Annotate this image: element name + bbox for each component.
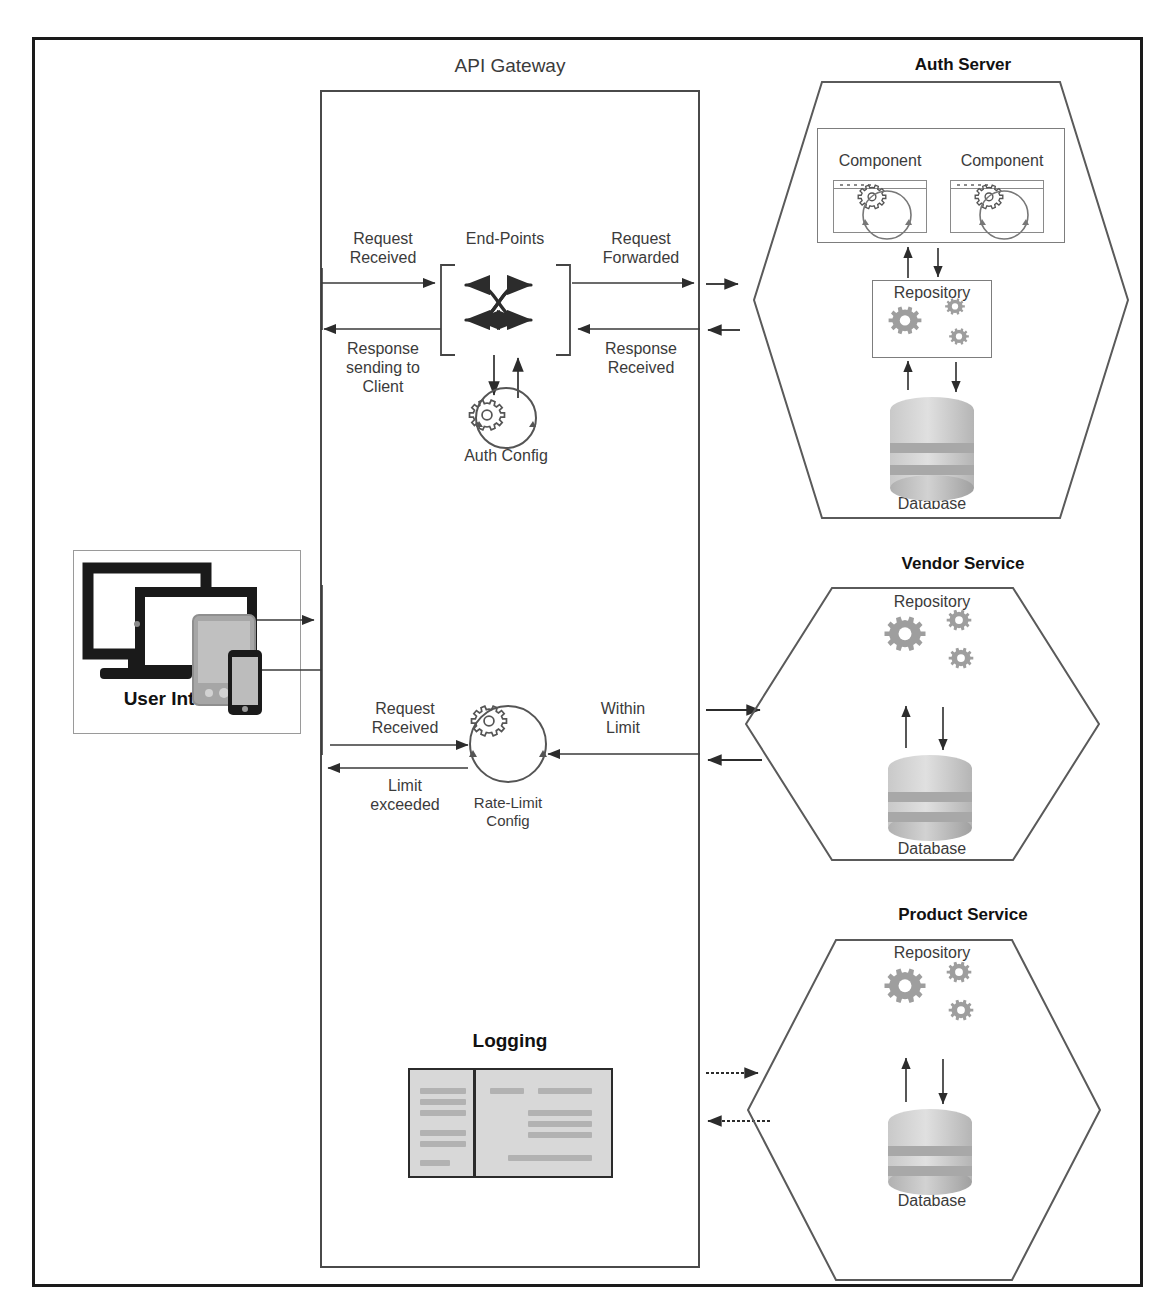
log-line (420, 1088, 466, 1094)
window-dot (985, 184, 988, 186)
product-database-label: Database (872, 1192, 992, 1211)
component-auth-window-icon (833, 180, 927, 233)
label-within-limit: Within Limit (575, 700, 671, 738)
label-endpoints: End-Points (440, 230, 570, 249)
vendor-repository-label: Repository (872, 593, 992, 612)
label-auth-config: Auth Config (442, 447, 570, 466)
auth-server-title: Auth Server (848, 55, 1078, 75)
log-line (508, 1155, 592, 1161)
label-response-received: Response Received (583, 340, 699, 378)
user-interface-label: User Interface (80, 688, 294, 710)
window-dot (840, 184, 843, 186)
label-response-sending-to-client: Response sending to Client (326, 340, 440, 397)
window-dot (978, 184, 981, 186)
product-repository-label: Repository (872, 944, 992, 963)
log-line (528, 1132, 592, 1138)
component-auth-line1: Component (839, 152, 922, 169)
api-gateway-title: API Gateway (400, 55, 620, 77)
logging-spine (473, 1070, 476, 1176)
logging-panel (408, 1068, 613, 1178)
label-request-forwarded: Request Forwarded (583, 230, 699, 268)
log-line (420, 1099, 466, 1105)
window-dot (971, 184, 974, 186)
vendor-database-label: Database (872, 840, 992, 859)
window-dot (847, 184, 850, 186)
window-dot (861, 184, 864, 186)
log-line (528, 1121, 592, 1127)
label-limit-exceeded: Limit exceeded (350, 777, 460, 815)
component-user-window-icon (950, 180, 1044, 233)
label-rate-limit-config: Rate-Limit Config (452, 794, 564, 829)
label-request-received-top: Request Received (328, 230, 438, 268)
log-line (528, 1110, 592, 1116)
auth-repository-label: Repository (872, 284, 992, 303)
auth-database-label: Database (872, 495, 992, 514)
logging-title: Logging (440, 1030, 580, 1052)
label-request-received-rate: Request Received (350, 700, 460, 738)
log-line (420, 1130, 466, 1136)
log-line (420, 1110, 466, 1116)
window-dot (964, 184, 967, 186)
window-dot (957, 184, 960, 186)
window-dot (854, 184, 857, 186)
product-service-title: Product Service (848, 905, 1078, 925)
log-line (538, 1088, 592, 1094)
component-user-line1: Component (961, 152, 1044, 169)
vendor-service-title: Vendor Service (848, 554, 1078, 574)
log-line (490, 1088, 524, 1094)
window-dot (868, 184, 871, 186)
log-line (420, 1160, 450, 1166)
log-line (420, 1141, 466, 1147)
